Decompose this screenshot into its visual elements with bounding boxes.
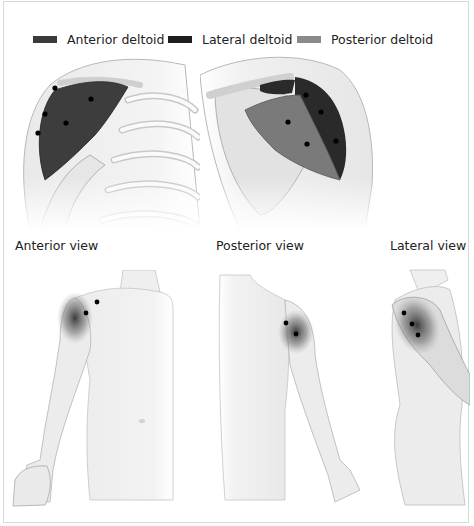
- lateral-body-view: [370, 265, 470, 520]
- legend-item-posterior: Posterior deltoid: [297, 32, 433, 47]
- legend-swatch-anterior: [33, 36, 57, 43]
- legend-swatch-posterior: [297, 36, 321, 43]
- legend-item-lateral: Lateral deltoid: [168, 32, 293, 47]
- legend-label-posterior: Posterior deltoid: [331, 32, 433, 47]
- posterior-shoulder-closeup: [200, 55, 380, 230]
- anterior-shoulder-closeup: [10, 55, 200, 230]
- legend: Anterior deltoid Lateral deltoid Posteri…: [33, 32, 474, 48]
- legend-item-anterior: Anterior deltoid: [33, 32, 165, 47]
- anterior-body-view: [5, 270, 200, 520]
- view-label-posterior: Posterior view: [216, 238, 304, 253]
- view-label-anterior: Anterior view: [15, 238, 98, 253]
- legend-label-anterior: Anterior deltoid: [67, 32, 165, 47]
- posterior-body-view: [210, 270, 365, 520]
- legend-swatch-lateral: [168, 36, 192, 43]
- view-label-lateral: Lateral view: [390, 238, 466, 253]
- legend-label-lateral: Lateral deltoid: [202, 32, 293, 47]
